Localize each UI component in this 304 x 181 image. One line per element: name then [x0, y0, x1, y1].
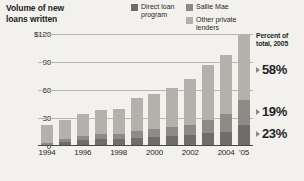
x-tick-label: 2004	[218, 148, 235, 157]
legend-column-2: Sallie Mae Other private lenders	[186, 3, 236, 34]
bar-segment[interactable]	[77, 114, 89, 135]
bar-segment[interactable]	[238, 125, 250, 146]
bar-group[interactable]	[38, 34, 56, 146]
legend-swatch-direct-loan-program	[131, 4, 138, 11]
legend-label-sallie-mae: Sallie Mae	[186, 3, 236, 11]
x-tick-label: 1998	[110, 148, 127, 157]
x-tick-label: 2002	[182, 148, 199, 157]
percent-row: 19%	[256, 104, 287, 119]
bar-group[interactable]	[128, 34, 146, 146]
bar-segment[interactable]	[166, 127, 178, 135]
bar-segment[interactable]	[148, 129, 160, 136]
stacked-bar[interactable]	[77, 114, 89, 146]
bar-series-group	[38, 34, 253, 146]
stacked-bar[interactable]	[41, 125, 53, 146]
legend-column-1: Direct loan program	[131, 3, 174, 21]
bar-group[interactable]	[74, 34, 92, 146]
chart-legend: Direct loan program Sallie Mae Other pri…	[131, 3, 259, 31]
bar-segment[interactable]	[113, 109, 125, 134]
x-tick-label: 2000	[146, 148, 163, 157]
stacked-bar[interactable]	[148, 94, 160, 146]
plot-area: 199419961998200020022004'05	[38, 34, 253, 146]
percent-row: 58%	[256, 62, 287, 77]
bar-segment[interactable]	[148, 94, 160, 129]
bar-segment[interactable]	[184, 125, 196, 135]
x-tick-label: 1994	[38, 148, 55, 157]
legend-swatch-sallie-mae	[186, 4, 193, 11]
x-axis-line	[38, 145, 253, 146]
bar-segment[interactable]	[59, 120, 71, 139]
bar-segment[interactable]	[238, 100, 250, 125]
bar-group[interactable]	[146, 34, 164, 146]
stacked-bar[interactable]	[220, 55, 232, 146]
bar-group[interactable]	[181, 34, 199, 146]
percent-panel-header: Percent of total, 2005	[256, 32, 304, 48]
percent-of-total-panel: Percent of total, 2005 58%19%23%	[256, 32, 304, 152]
percent-value: 19%	[262, 104, 287, 119]
stacked-bar[interactable]	[95, 110, 107, 146]
bar-segment[interactable]	[166, 88, 178, 127]
bar-group[interactable]	[92, 34, 110, 146]
bar-group[interactable]	[217, 34, 235, 146]
legend-swatch-other-private-lenders	[186, 17, 193, 24]
bar-segment[interactable]	[95, 110, 107, 134]
bar-group[interactable]	[163, 34, 181, 146]
stacked-bar[interactable]	[166, 88, 178, 146]
triangle-right-icon	[256, 131, 260, 137]
bar-segment[interactable]	[184, 79, 196, 125]
legend-item-other-private-lenders[interactable]: Other private lenders	[186, 16, 236, 32]
stacked-bar[interactable]	[59, 120, 71, 146]
triangle-right-icon	[256, 109, 260, 115]
legend-label-other-private-lenders: Other private lenders	[186, 16, 236, 32]
triangle-right-icon	[256, 67, 260, 73]
percent-value: 58%	[262, 62, 287, 77]
stacked-bar[interactable]	[238, 35, 250, 146]
bar-segment[interactable]	[202, 65, 214, 120]
stacked-bar[interactable]	[202, 65, 214, 146]
bar-group[interactable]	[56, 34, 74, 146]
legend-item-direct-loan-program[interactable]: Direct loan program	[131, 3, 174, 19]
bar-group[interactable]	[235, 34, 253, 146]
percent-value: 23%	[262, 126, 287, 141]
stacked-bar[interactable]	[113, 109, 125, 146]
x-tick-label: '05	[239, 148, 249, 157]
bar-group[interactable]	[110, 34, 128, 146]
stacked-bar[interactable]	[131, 98, 143, 146]
bar-segment[interactable]	[202, 120, 214, 133]
chart-figure: Volume of new loans written Direct loan …	[0, 0, 304, 181]
stacked-bar[interactable]	[184, 79, 196, 146]
bar-segment[interactable]	[131, 98, 143, 131]
bar-group[interactable]	[199, 34, 217, 146]
page-title: Volume of new loans written	[6, 3, 101, 24]
bar-segment[interactable]	[220, 114, 232, 132]
legend-item-sallie-mae[interactable]: Sallie Mae	[186, 3, 236, 14]
percent-row: 23%	[256, 126, 287, 141]
bar-segment[interactable]	[238, 35, 250, 100]
bar-segment[interactable]	[41, 125, 53, 143]
bar-segment[interactable]	[220, 55, 232, 114]
x-tick-label: 1996	[74, 148, 91, 157]
